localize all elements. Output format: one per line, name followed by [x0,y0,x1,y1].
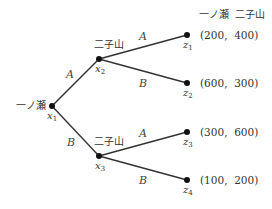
node-label-x2: x2 [95,63,105,76]
node-z4 [184,177,190,183]
node-z2 [184,80,190,86]
payoff-z1: (200, 400) [200,29,258,41]
payoff-z2: (600, 300) [200,77,258,89]
node-label-z3: z3 [182,136,193,149]
node-label-z2: z2 [182,87,193,100]
game-tree: 一ノ瀬 二子山 一ノ瀬 二子山 二子山 x1 x2 x3 z1 z2 z3 z4… [0,0,272,209]
node-x2 [96,56,102,62]
player-label-x1: 一ノ瀬 [16,100,46,111]
node-x1 [49,103,55,109]
player-label-x3: 二子山 [94,136,124,147]
node-label-z1: z1 [182,39,193,52]
action-x2-z1: A [138,30,147,43]
action-x1-x2: A [65,68,74,81]
payoff-z3: (300, 600) [200,126,258,138]
action-x2-z2: B [138,77,147,90]
node-label-x1: x1 [47,110,57,123]
node-label-x3: x3 [95,160,105,173]
header-player2: 二子山 [235,9,265,20]
payoff-z4: (100, 200) [200,174,258,186]
action-x3-z4: B [138,174,147,187]
action-x1-x3: B [66,136,75,149]
node-z3 [184,129,190,135]
action-x3-z3: A [138,127,147,140]
node-z1 [184,32,190,38]
node-x3 [96,153,102,159]
edge-x1-x2 [52,59,99,106]
edge-x1-x3 [52,106,99,156]
node-label-z4: z4 [182,184,193,197]
player-label-x2: 二子山 [94,39,124,50]
header-player1: 一ノ瀬 [199,9,229,20]
